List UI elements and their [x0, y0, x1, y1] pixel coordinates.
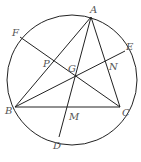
circumcircle	[7, 15, 137, 145]
label-point-d: D	[52, 140, 61, 151]
label-point-b: B	[4, 105, 12, 116]
label-point-g: G	[68, 63, 76, 74]
label-point-p: P	[42, 58, 50, 69]
label-point-f: F	[11, 27, 20, 38]
segment-ab	[15, 17, 91, 107]
label-point-c: C	[122, 107, 130, 118]
label-point-m: M	[68, 111, 80, 122]
label-point-a: A	[89, 4, 97, 15]
geometry-diagram: ABCDEFGMNP	[0, 0, 141, 162]
label-point-e: E	[125, 41, 134, 52]
label-point-n: N	[108, 61, 119, 72]
